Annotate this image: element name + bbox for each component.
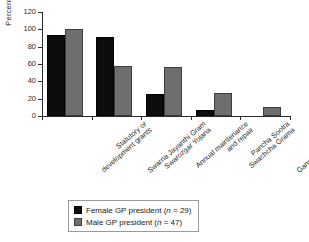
y-axis-line [42,12,43,116]
legend-label-male: Male GP president (n = 47) [86,218,182,227]
x-tick [191,116,192,120]
plot-area: 020406080100120 [42,12,290,116]
y-tick-label: 100 [23,24,36,33]
y-tick-label: 120 [23,7,36,16]
bar-male-2 [164,67,182,116]
bar-chart: Percent 020406080100120 Statutory ordeve… [0,0,309,242]
bar-male-4 [263,107,281,116]
y-tick: 120 [38,12,42,13]
x-category-label-0: Statutory ordevelopment grants [95,120,154,175]
y-tick-label: 40 [28,76,36,85]
y-tick-label: 60 [28,59,36,68]
x-tick [290,116,291,120]
y-tick-label: 20 [28,94,36,103]
legend-swatch-female-icon [74,206,82,214]
legend: Female GP president (n = 29) Male GP pre… [68,200,199,232]
x-category-label-4: Ganga Kalyana Yojana [295,120,309,175]
y-tick-label: 80 [28,42,36,51]
y-tick: 100 [38,29,42,30]
bar-female-1 [96,37,114,116]
y-tick: 60 [38,64,42,65]
legend-item-female: Female GP president (n = 29) [74,204,191,216]
x-tick [92,116,93,120]
bar-female-3 [196,110,214,116]
legend-label-female: Female GP president (n = 29) [86,206,191,215]
bar-male-1 [114,66,132,116]
y-axis-label: Percent [4,0,13,40]
bar-female-2 [146,94,164,116]
y-tick: 40 [38,81,42,82]
y-tick-label: 0 [32,111,36,120]
bar-male-3 [214,93,232,116]
y-tick: 20 [38,99,42,100]
bar-male-0 [65,29,83,116]
legend-item-male: Male GP president (n = 47) [74,216,191,228]
x-tick [240,116,241,120]
y-tick: 80 [38,47,42,48]
legend-swatch-male-icon [74,218,82,226]
bar-female-0 [47,35,65,116]
x-tick [42,116,43,120]
x-axis-line [42,116,290,117]
